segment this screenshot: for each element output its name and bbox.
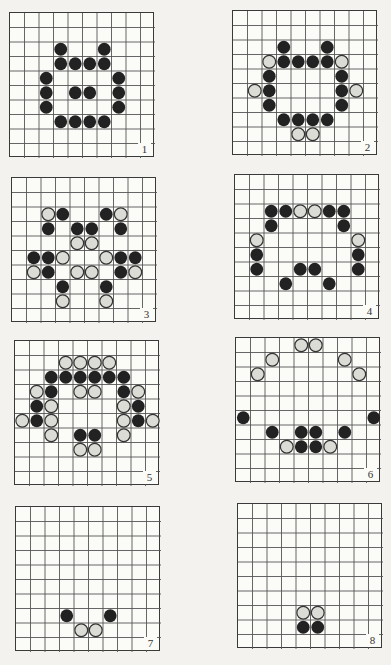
white-stone-icon (71, 266, 84, 279)
grid-lines (235, 175, 380, 320)
white-stone-icon (306, 128, 319, 141)
black-stone-icon (337, 219, 350, 232)
grid-lines (238, 504, 383, 649)
black-stone-icon (30, 400, 43, 413)
black-stone-icon (306, 55, 319, 68)
black-stone-icon (88, 429, 101, 442)
white-stone-icon (309, 339, 322, 352)
black-stone-icon (266, 426, 279, 439)
white-stone-icon (85, 237, 98, 250)
black-stone-icon (88, 371, 101, 384)
black-stone-icon (114, 251, 127, 264)
black-stone-icon (263, 70, 276, 83)
black-stone-icon (311, 621, 324, 634)
black-stone-icon (117, 371, 130, 384)
board-1: 1 (9, 12, 154, 157)
black-stone-icon (352, 263, 365, 276)
grid-lines (15, 341, 160, 486)
black-stone-icon (83, 57, 96, 70)
black-stone-icon (352, 248, 365, 261)
black-stone-icon (277, 113, 290, 126)
white-stone-icon (117, 414, 130, 427)
white-stone-icon (100, 251, 113, 264)
black-stone-icon (42, 266, 55, 279)
white-stone-icon (251, 368, 264, 381)
black-stone-icon (132, 414, 145, 427)
black-stone-icon (85, 222, 98, 235)
black-stone-icon (54, 57, 67, 70)
white-stone-icon (45, 400, 58, 413)
white-stone-icon (27, 266, 40, 279)
black-stone-icon (30, 414, 43, 427)
black-stone-icon (56, 208, 69, 221)
white-stone-icon (88, 385, 101, 398)
white-stone-icon (280, 440, 293, 453)
black-stone-icon (40, 101, 53, 114)
black-stone-icon (45, 385, 58, 398)
board-number: 8 (366, 634, 379, 647)
black-stone-icon (323, 277, 336, 290)
board-8: 8 (237, 503, 382, 648)
black-stone-icon (112, 72, 125, 85)
black-stone-icon (112, 101, 125, 114)
grid-lines (10, 13, 155, 158)
white-stone-icon (59, 356, 72, 369)
black-stone-icon (129, 251, 142, 264)
white-stone-icon (42, 208, 55, 221)
black-stone-icon (98, 43, 111, 56)
white-stone-icon (350, 84, 363, 97)
black-stone-icon (321, 41, 334, 54)
black-stone-icon (309, 426, 322, 439)
black-stone-icon (112, 86, 125, 99)
white-stone-icon (338, 353, 351, 366)
white-stone-icon (117, 429, 130, 442)
black-stone-icon (292, 113, 305, 126)
black-stone-icon (294, 263, 307, 276)
black-stone-icon (56, 280, 69, 293)
black-stone-icon (100, 280, 113, 293)
black-stone-icon (297, 621, 310, 634)
black-stone-icon (323, 205, 336, 218)
black-stone-icon (42, 222, 55, 235)
white-stone-icon (248, 84, 261, 97)
white-stone-icon (103, 356, 116, 369)
white-stone-icon (295, 339, 308, 352)
black-stone-icon (279, 277, 292, 290)
white-stone-icon (74, 385, 87, 398)
black-stone-icon (45, 371, 58, 384)
white-stone-icon (30, 385, 43, 398)
black-stone-icon (309, 440, 322, 453)
white-stone-icon (308, 205, 321, 218)
white-stone-icon (266, 353, 279, 366)
black-stone-icon (132, 400, 145, 413)
black-stone-icon (306, 113, 319, 126)
board-number: 1 (138, 143, 151, 156)
board-number: 3 (140, 308, 153, 321)
black-stone-icon (100, 208, 113, 221)
white-stone-icon (129, 266, 142, 279)
grid-lines (233, 11, 378, 156)
board-6: 6 (235, 337, 380, 482)
black-stone-icon (103, 371, 116, 384)
black-stone-icon (27, 251, 40, 264)
white-stone-icon (114, 208, 127, 221)
black-stone-icon (74, 429, 87, 442)
black-stone-icon (250, 248, 263, 261)
black-stone-icon (321, 113, 334, 126)
black-stone-icon (338, 426, 351, 439)
black-stone-icon (337, 205, 350, 218)
black-stone-icon (295, 426, 308, 439)
board-number: 4 (363, 305, 376, 318)
black-stone-icon (69, 115, 82, 128)
white-stone-icon (74, 356, 87, 369)
black-stone-icon (250, 263, 263, 276)
black-stone-icon (277, 41, 290, 54)
white-stone-icon (297, 606, 310, 619)
black-stone-icon (69, 86, 82, 99)
black-stone-icon (74, 371, 87, 384)
white-stone-icon (75, 624, 88, 637)
black-stone-icon (117, 385, 130, 398)
white-stone-icon (100, 295, 113, 308)
black-stone-icon (321, 55, 334, 68)
white-stone-icon (146, 414, 159, 427)
